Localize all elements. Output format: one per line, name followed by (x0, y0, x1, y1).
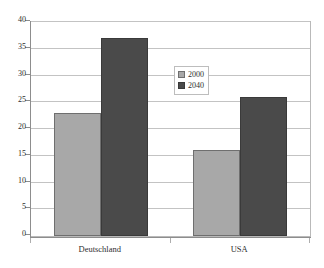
bar-usa-2040 (240, 97, 287, 236)
y-axis-label: 15 (18, 150, 26, 158)
y-axis-label: 5 (22, 203, 26, 211)
gridline (31, 75, 310, 76)
legend-label: 2000 (188, 71, 204, 79)
x-axis-tick (309, 238, 310, 243)
y-axis-label: 35 (18, 43, 26, 51)
legend-swatch-icon (178, 71, 185, 78)
x-axis-tick (30, 238, 31, 243)
bar-deutschland-2000 (54, 113, 101, 236)
y-axis-label: 30 (18, 70, 26, 78)
plot-area (30, 21, 311, 237)
x-axis-tick (170, 238, 171, 243)
x-axis-line (30, 237, 311, 238)
gridline (31, 48, 310, 49)
chart-legend: 20002040 (174, 66, 209, 95)
gridline (31, 21, 310, 22)
y-axis-label: 40 (18, 16, 26, 24)
legend-item-2000: 2000 (178, 69, 204, 80)
bar-usa-2000 (193, 150, 240, 236)
y-axis-label: 20 (18, 123, 26, 131)
y-axis-label: 10 (18, 177, 26, 185)
y-axis-label: 25 (18, 96, 26, 104)
bar-deutschland-2040 (101, 38, 148, 236)
y-axis-line (30, 21, 31, 238)
legend-swatch-icon (178, 82, 185, 89)
x-axis-label-deutschland: Deutschland (30, 245, 170, 254)
legend-label: 2040 (188, 82, 204, 90)
legend-item-2040: 2040 (178, 80, 204, 91)
x-axis-label-usa: USA (170, 245, 310, 254)
y-axis-label: 0 (22, 230, 26, 238)
bar-chart: 0510152025303540 DeutschlandUSA 20002040 (0, 0, 324, 268)
